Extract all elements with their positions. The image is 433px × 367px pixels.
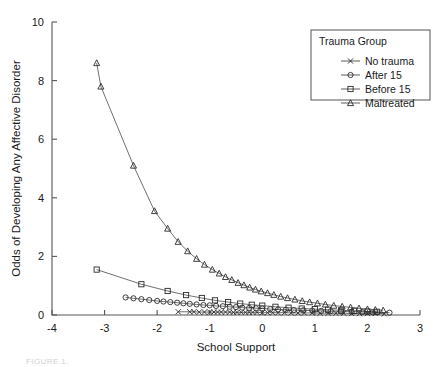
legend-title: Trauma Group [319, 35, 387, 47]
legend-item-label: After 15 [365, 69, 402, 81]
figure-caption: FIGURE 1. [26, 357, 69, 366]
y-tick-label: 2 [38, 250, 44, 262]
y-axis-title: Odds of Developing Any Affective Disorde… [10, 60, 22, 277]
x-tick-label: 1 [312, 322, 318, 334]
y-tick-label: 8 [38, 75, 44, 87]
x-axis-title: School Support [197, 341, 276, 353]
y-tick-label: 0 [38, 309, 44, 321]
x-tick-label: -2 [152, 322, 162, 334]
x-tick-label: 2 [364, 322, 370, 334]
x-tick-label: -3 [100, 322, 110, 334]
legend-item-label: Maltreated [365, 97, 415, 109]
y-tick-label: 10 [32, 16, 44, 28]
odds-scatter-chart: 0246810-4-3-2-10123School SupportOdds of… [0, 0, 433, 367]
legend-item-label: No trauma [365, 55, 414, 67]
x-tick-label: -1 [205, 322, 215, 334]
x-tick-label: 0 [259, 322, 265, 334]
y-tick-label: 4 [38, 192, 44, 204]
y-tick-label: 6 [38, 133, 44, 145]
x-tick-label: 3 [417, 322, 423, 334]
legend: Trauma GroupNo traumaAfter 15Before 15Ma… [311, 30, 430, 109]
legend-item-label: Before 15 [365, 83, 411, 95]
x-tick-label: -4 [47, 322, 57, 334]
figure-container: 0246810-4-3-2-10123School SupportOdds of… [0, 0, 433, 367]
